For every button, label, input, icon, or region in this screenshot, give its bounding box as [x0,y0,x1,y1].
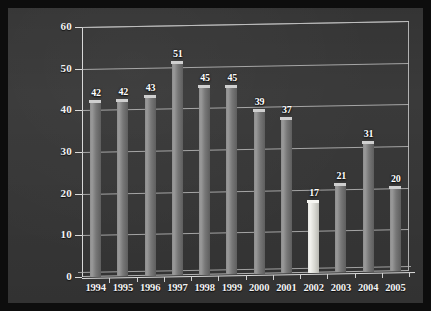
bar-value-label-2005: 20 [384,173,408,184]
bar-body-1999[interactable] [226,87,237,275]
bar-cap-2002 [307,200,319,203]
bars-layer: 424243514545393717213120 [30,20,410,280]
bar-value-label-2003: 21 [329,170,353,181]
bar-value-label-1994: 42 [84,87,108,98]
bar-cap-1995 [116,99,128,102]
bar-cap-1998 [198,85,210,88]
bar-body-1994[interactable] [90,102,101,277]
bar-value-label-1997: 51 [166,48,190,59]
bar-body-1997[interactable] [172,63,183,276]
bar-body-2003[interactable] [335,185,346,273]
bar-cap-1997 [171,61,183,64]
bar-cap-2005 [389,186,401,189]
plot-area: 0102030405060 424243514545393717213120 [30,20,410,280]
bar-cap-1999 [225,85,237,88]
bar-value-label-1999: 45 [220,72,244,83]
bar-cap-2004 [362,141,374,144]
bar-value-label-2004: 31 [357,128,381,139]
bar-cap-1996 [144,95,156,98]
bar-body-2001[interactable] [281,119,292,273]
bar-body-2002[interactable] [308,202,319,273]
x-axis-labels-group: 1994199519961997199819992000200120022003… [30,282,410,303]
bar-value-label-1998: 45 [193,72,217,83]
bar-value-label-1995: 42 [111,86,135,97]
bar-value-label-2001: 37 [275,104,299,115]
bar-cap-2000 [253,109,265,112]
bar-value-label-2002: 17 [302,187,326,198]
chart-plot-canvas: 0102030405060 424243514545393717213120 1… [8,8,423,303]
bar-value-label-1996: 43 [139,82,163,93]
bar-body-1998[interactable] [199,87,210,275]
bar-body-2004[interactable] [363,143,374,272]
bar-cap-2003 [334,183,346,186]
bar-body-1995[interactable] [117,101,128,276]
chart-outer-frame: 0102030405060 424243514545393717213120 1… [0,0,431,311]
chart-screenshot: 0102030405060 424243514545393717213120 1… [0,0,431,311]
bar-body-2005[interactable] [390,188,401,271]
bar-value-label-2000: 39 [248,96,272,107]
x-axis-label-2005: 2005 [378,282,412,293]
bar-cap-2001 [280,117,292,120]
bar-body-2000[interactable] [254,111,265,274]
bar-cap-1994 [89,100,101,103]
bar-body-1996[interactable] [145,97,156,276]
